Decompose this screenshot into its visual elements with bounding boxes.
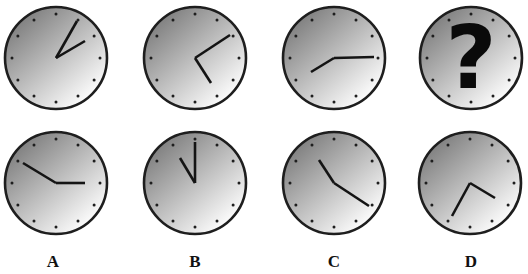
hour-tick-dot (77, 143, 80, 146)
hour-tick-dot (155, 79, 158, 82)
hour-tick-dot (11, 182, 14, 185)
hour-tick-dot (371, 79, 374, 82)
hour-tick-dot (232, 79, 235, 82)
hour-tick-dot (16, 160, 19, 163)
hour-tick-dot (33, 220, 36, 223)
hour-tick-dot (194, 101, 197, 104)
hour-tick-dot (371, 204, 374, 207)
option-label-d[interactable]: D (451, 252, 491, 272)
hour-tick-dot (507, 204, 510, 207)
question-mark-icon: ? (445, 6, 496, 109)
hour-tick-dot (425, 182, 428, 185)
hour-tick-dot (77, 95, 80, 98)
hour-tick-dot (172, 220, 175, 223)
hour-tick-dot (469, 226, 472, 229)
hour-tick-dot (294, 204, 297, 207)
clock-seq-1 (5, 7, 107, 109)
hour-tick-dot (311, 220, 314, 223)
hour-tick-dot (33, 143, 36, 146)
hour-tick-dot (232, 35, 235, 38)
clock-option-b[interactable] (144, 132, 246, 234)
clock-hand-a (334, 57, 374, 58)
clock-option-c[interactable] (283, 132, 385, 234)
hour-tick-dot (355, 220, 358, 223)
hour-tick-dot (55, 226, 58, 229)
hour-tick-dot (371, 160, 374, 163)
hour-tick-dot (430, 204, 433, 207)
hour-tick-dot (426, 57, 429, 60)
hour-tick-dot (93, 204, 96, 207)
options-row (5, 132, 521, 234)
clock-puzzle: ? (0, 0, 528, 274)
hour-tick-dot (155, 35, 158, 38)
hour-tick-dot (355, 18, 358, 21)
hour-tick-dot (216, 95, 219, 98)
hour-tick-dot (194, 138, 197, 141)
hour-tick-dot (311, 95, 314, 98)
hour-tick-dot (155, 160, 158, 163)
hour-tick-dot (55, 13, 58, 16)
hour-tick-dot (238, 57, 241, 60)
hour-tick-dot (33, 18, 36, 21)
hour-tick-dot (507, 160, 510, 163)
hour-tick-dot (508, 35, 511, 38)
hour-tick-dot (150, 57, 153, 60)
hour-tick-dot (150, 182, 153, 185)
hour-tick-dot (447, 143, 450, 146)
hour-tick-dot (289, 57, 292, 60)
hour-tick-dot (311, 143, 314, 146)
hour-tick-dot (514, 57, 517, 60)
hour-tick-dot (491, 220, 494, 223)
hour-tick-dot (289, 182, 292, 185)
hour-tick-dot (99, 182, 102, 185)
clock-seq-4-unknown: ? (420, 6, 522, 109)
hour-tick-dot (232, 160, 235, 163)
option-label-c[interactable]: C (314, 252, 354, 272)
hour-tick-dot (216, 143, 219, 146)
hour-tick-dot (333, 13, 336, 16)
hour-tick-dot (55, 138, 58, 141)
hour-tick-dot (355, 143, 358, 146)
hour-tick-dot (238, 182, 241, 185)
hour-tick-dot (93, 35, 96, 38)
clock-option-d[interactable] (419, 132, 521, 234)
hour-tick-dot (491, 143, 494, 146)
hour-tick-dot (11, 57, 14, 60)
hour-tick-dot (294, 160, 297, 163)
hour-tick-dot (33, 95, 36, 98)
hour-tick-dot (155, 204, 158, 207)
hour-tick-dot (172, 143, 175, 146)
hour-tick-dot (377, 182, 380, 185)
option-label-b[interactable]: B (175, 252, 215, 272)
option-label-a[interactable]: A (33, 252, 73, 272)
hour-tick-dot (93, 160, 96, 163)
hour-tick-dot (447, 220, 450, 223)
clock-option-a[interactable] (5, 132, 107, 234)
hour-tick-dot (77, 18, 80, 21)
hour-tick-dot (16, 35, 19, 38)
clock-seq-2 (144, 7, 246, 109)
hour-tick-dot (16, 79, 19, 82)
hour-tick-dot (377, 57, 380, 60)
hour-tick-dot (371, 35, 374, 38)
hour-tick-dot (232, 204, 235, 207)
hour-tick-dot (294, 79, 297, 82)
hour-tick-dot (508, 79, 511, 82)
hour-tick-dot (93, 79, 96, 82)
hour-tick-dot (430, 160, 433, 163)
hour-tick-dot (355, 95, 358, 98)
hour-tick-dot (172, 18, 175, 21)
hour-tick-dot (216, 220, 219, 223)
hour-tick-dot (311, 18, 314, 21)
hour-tick-dot (333, 101, 336, 104)
hour-tick-dot (469, 138, 472, 141)
hour-tick-dot (431, 79, 434, 82)
hour-tick-dot (216, 18, 219, 21)
sequence-row: ? (5, 6, 522, 109)
hour-tick-dot (172, 95, 175, 98)
hour-tick-dot (194, 226, 197, 229)
hour-tick-dot (55, 101, 58, 104)
hour-tick-dot (294, 35, 297, 38)
hour-tick-dot (99, 57, 102, 60)
hour-tick-dot (194, 13, 197, 16)
